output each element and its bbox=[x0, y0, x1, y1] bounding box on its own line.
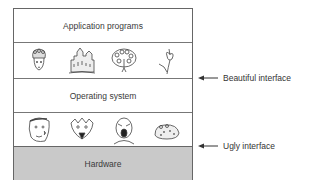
castle-icon bbox=[68, 46, 96, 76]
callout-label: Ugly interface bbox=[223, 141, 275, 151]
toad-icon bbox=[153, 115, 181, 145]
callout-ugly-interface: Ugly interface bbox=[198, 141, 275, 151]
screaming-man-icon bbox=[110, 115, 138, 145]
layer-label: Operating system bbox=[70, 91, 137, 101]
woman-headdress-icon bbox=[25, 46, 53, 76]
left-arrow-icon bbox=[198, 74, 218, 82]
peacock-icon bbox=[110, 46, 138, 76]
layer-ugly-pictures bbox=[14, 112, 192, 146]
layer-hardware: Hardware bbox=[14, 146, 192, 180]
layer-application-programs: Application programs bbox=[14, 9, 192, 42]
callout-beautiful-interface: Beautiful interface bbox=[198, 73, 291, 83]
snarling-creature-icon bbox=[68, 115, 96, 145]
layer-operating-system: Operating system bbox=[14, 78, 192, 112]
callout-label: Beautiful interface bbox=[223, 73, 291, 83]
layer-label: Application programs bbox=[63, 21, 143, 31]
layer-stack: Application programs bbox=[13, 8, 193, 180]
layer-beautiful-pictures bbox=[14, 42, 192, 78]
flower-icon bbox=[153, 46, 181, 76]
left-arrow-icon bbox=[198, 142, 218, 150]
grotesque-face-icon bbox=[25, 115, 53, 145]
layer-label: Hardware bbox=[85, 159, 122, 169]
